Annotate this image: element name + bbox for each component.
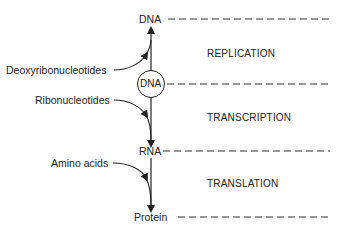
- deoxyribonucleotides-arrow: [114, 55, 146, 70]
- input-deoxyribonucleotides: Deoxyribonucleotides: [6, 64, 106, 76]
- node-dna-circle-label: DNA: [140, 78, 161, 90]
- node-protein: Protein: [134, 211, 167, 223]
- stage-replication: REPLICATION: [207, 48, 275, 60]
- node-dna: DNA: [139, 13, 161, 25]
- amino-acids-arrow: [113, 163, 146, 178]
- stage-transcription: TRANSCRIPTION: [207, 112, 291, 124]
- node-rna: RNA: [139, 145, 161, 157]
- stage-translation: TRANSLATION: [207, 178, 278, 190]
- ribonucleotides-arrow: [114, 100, 146, 115]
- input-amino-acids: Amino acids: [51, 157, 108, 169]
- flow-diagram: [0, 0, 348, 234]
- input-ribonucleotides: Ribonucleotides: [35, 94, 110, 106]
